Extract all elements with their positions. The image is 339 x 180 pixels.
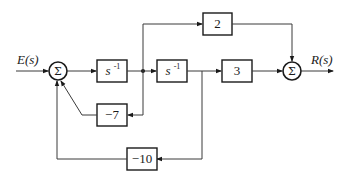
feedforward-gain-label: 2: [214, 16, 221, 31]
outer-feedback-gain-label: −10: [132, 151, 152, 166]
wire-inner-feedback-to-sum1: [61, 81, 97, 115]
inner-feedback-gain-label: −7: [105, 107, 119, 122]
integrator1-exponent: -1: [114, 62, 121, 71]
block-diagram: E(s) Σ s -1 2 −7 s -1 3: [0, 0, 339, 180]
inner-feedback-gain-block: −7: [97, 104, 127, 126]
summing-junction-2: Σ: [283, 62, 301, 80]
outer-feedback-gain-block: −10: [127, 148, 157, 170]
wire-to-outer-feedback: [157, 71, 202, 159]
summing-junction-1: Σ: [49, 62, 67, 80]
feedforward-gain-block: 2: [203, 13, 232, 35]
forward-gain-block: 3: [222, 60, 252, 82]
integrator2-base: s: [165, 63, 170, 78]
integrator2-exponent: -1: [174, 62, 181, 71]
sum2-symbol: Σ: [288, 65, 296, 78]
forward-gain-label: 3: [234, 63, 241, 78]
integrator1-base: s: [105, 63, 110, 78]
wire-gain2-to-sum2: [232, 24, 292, 61]
output-signal-label: R(s): [310, 52, 333, 67]
integrator-block-2: s -1: [157, 60, 187, 82]
wire-to-inner-feedback: [128, 71, 143, 115]
integrator-block-1: s -1: [97, 60, 127, 82]
input-signal-label: E(s): [16, 52, 39, 67]
sum1-symbol: Σ: [54, 65, 62, 78]
